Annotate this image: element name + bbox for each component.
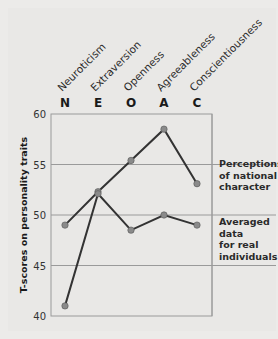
trait-letter: N [60,96,70,110]
data-point-marker [161,212,167,218]
y-tick-label: 50 [33,210,46,221]
legend-line: Perceptions [219,158,278,170]
y-tick-label: 60 [33,109,46,120]
trait-name-labels: NeuroticismExtraversionOpennessAgreeable… [55,16,264,93]
legend-line: individuals [219,251,277,263]
data-point-marker [194,222,200,228]
trait-letter: A [159,96,169,110]
data-point-marker [62,303,68,309]
data-point-marker [128,157,134,163]
legend-perceptions: Perceptions of national character [219,158,278,193]
y-tick-label: 55 [33,160,46,171]
y-tick-labels: 4045505560 [33,109,46,322]
legend-line: for real [219,239,277,251]
series-line [65,129,197,225]
series-lines [62,126,200,309]
legend-line: character [219,181,278,193]
series-line [65,194,197,306]
data-point-marker [95,191,101,197]
data-point-marker [128,227,134,233]
y-axis-label: T-scores on personality traits [18,136,29,293]
trait-name-label: Agreeableness [154,30,217,93]
trait-letter: E [94,96,102,110]
legend-line: data [219,228,277,240]
legend-line: Averaged [219,216,277,228]
data-point-marker [194,180,200,186]
legend-line: of national [219,170,278,182]
trait-letters: NEOAC [60,96,202,110]
y-tick-label: 45 [33,261,46,272]
y-tick-label: 40 [33,311,46,322]
data-point-marker [62,222,68,228]
trait-letter: O [126,96,136,110]
legend-averaged: Averaged data for real individuals [219,216,277,262]
data-point-marker [161,126,167,132]
trait-letter: C [193,96,202,110]
